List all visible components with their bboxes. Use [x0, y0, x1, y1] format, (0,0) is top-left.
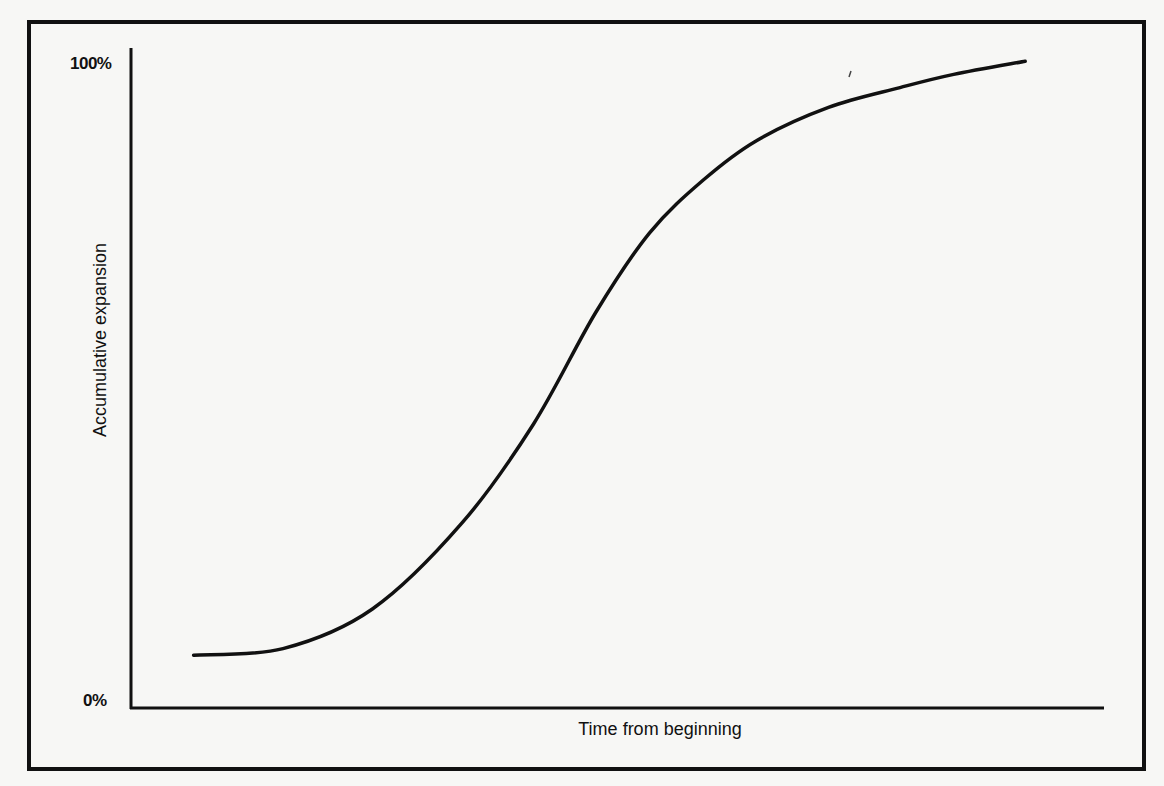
chart-plot-area [0, 0, 1164, 786]
accumulative-expansion-curve [194, 61, 1026, 655]
y-tick-min: 0% [83, 691, 107, 711]
x-axis-title: Time from beginning [578, 719, 741, 740]
y-tick-max: 100% [70, 54, 111, 74]
stray-mark [849, 71, 851, 77]
y-axis-title: Accumulative expansion [90, 243, 111, 437]
